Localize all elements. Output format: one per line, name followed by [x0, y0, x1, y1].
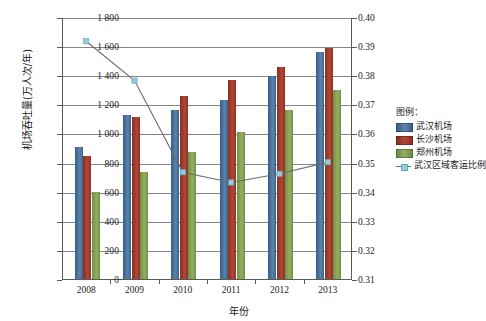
ratio-line-marker-0 [84, 39, 89, 44]
ratio-line-marker-2 [180, 170, 185, 175]
ratio-line-marker-4 [277, 171, 282, 176]
ratio-line-marker-1 [132, 78, 137, 83]
ratio-line-path [86, 41, 328, 182]
ratio-line-marker-3 [229, 180, 234, 185]
ratio-line-marker-5 [325, 160, 330, 165]
